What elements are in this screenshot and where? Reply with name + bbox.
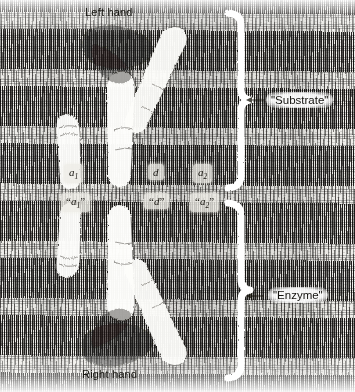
brace-leaders (246, 97, 264, 299)
label-enzyme: "Enzyme" (268, 287, 328, 303)
quote-close: ” (159, 195, 164, 207)
caption-right-hand: Right hand (82, 368, 137, 380)
marker-a1-sub: 1 (75, 172, 79, 181)
marker-a2-primed: “a2” (190, 193, 219, 212)
marker-a2-sub: 2 (204, 172, 208, 181)
marker-a1: a1 (64, 164, 83, 183)
substrate-brace (228, 13, 250, 188)
enzyme-brace (228, 203, 250, 378)
marker-d-primed: “d” (144, 193, 169, 209)
label-substrate: "Substrate" (266, 92, 333, 108)
marker-d-base: d (153, 166, 159, 178)
right-hand-group (57, 203, 187, 367)
marker-d: d (148, 164, 164, 180)
quote-close: ” (80, 195, 85, 207)
quote-close: ” (209, 195, 214, 207)
enzyme-substrate-hands-figure: Left hand Right hand "Substrate" "Enzyme… (0, 0, 355, 392)
marker-a2: a2 (193, 164, 212, 183)
figure-artwork (0, 0, 355, 392)
caption-left-hand: Left hand (85, 6, 133, 18)
marker-a1-primed: “a1” (61, 193, 90, 212)
right-hand-finger-a1-highlight (57, 203, 81, 278)
